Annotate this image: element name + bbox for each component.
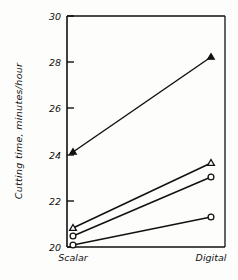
x-category-digital: Digital [196, 252, 227, 263]
series-line-4 [73, 217, 211, 245]
y-tick-label-30: 30 [49, 11, 61, 22]
marker-series4-digital [208, 214, 214, 220]
marker-series4-scalar [70, 242, 76, 248]
y-tick-label-24: 24 [49, 150, 61, 161]
partial-caption-below-figure [6, 273, 232, 280]
series-line-3 [73, 177, 211, 236]
line-chart: 30 28 26 24 22 20 Cutting time, minutes/… [0, 0, 238, 280]
marker-series3-digital [208, 174, 214, 180]
y-tick-label-26: 26 [49, 103, 61, 114]
y-axis-title: Cutting time, minutes/hour [13, 62, 24, 199]
series-line-2 [73, 163, 211, 228]
marker-series1-scalar [70, 149, 77, 155]
marker-series2-scalar [70, 225, 77, 231]
marker-series2-digital [208, 160, 215, 166]
marker-series3-scalar [70, 233, 76, 239]
figure-container: 30 28 26 24 22 20 Cutting time, minutes/… [0, 0, 238, 280]
x-category-scalar: Scalar [58, 252, 89, 263]
marker-series1-digital [208, 54, 215, 60]
y-tick-label-22: 22 [49, 196, 61, 207]
y-tick-label-28: 28 [49, 57, 61, 68]
series-line-1 [73, 57, 211, 152]
